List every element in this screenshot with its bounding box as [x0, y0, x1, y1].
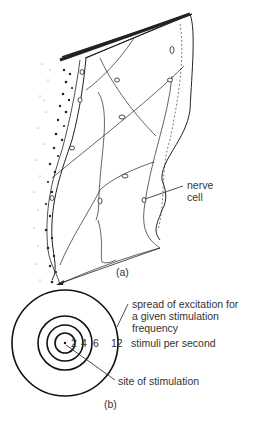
caption-b: (b) — [104, 398, 117, 410]
nerve-cell-pointer — [145, 186, 183, 199]
ring-value-4: 4 — [81, 337, 87, 349]
nerve-net-illustration — [0, 0, 253, 423]
arrow-head-icon — [56, 280, 64, 285]
spread-of-excitation-label: spread of excitation for a given stimula… — [132, 298, 238, 334]
stimulation-arrow — [58, 248, 160, 284]
stimulation-site-dot — [64, 342, 66, 344]
ring-value-6: 6 — [93, 337, 99, 349]
nerve-fibers — [52, 38, 184, 284]
ring-value-12: 12 — [111, 337, 123, 349]
site-of-stimulation-label: site of stimulation — [118, 375, 199, 387]
nerve-cell-label: nerve cell — [187, 179, 213, 203]
ring-value-2: 2 — [71, 337, 77, 349]
spread-pointer — [117, 304, 128, 327]
stimuli-per-second-label: stimuli per second — [131, 337, 216, 349]
caption-a: (a) — [116, 266, 129, 278]
